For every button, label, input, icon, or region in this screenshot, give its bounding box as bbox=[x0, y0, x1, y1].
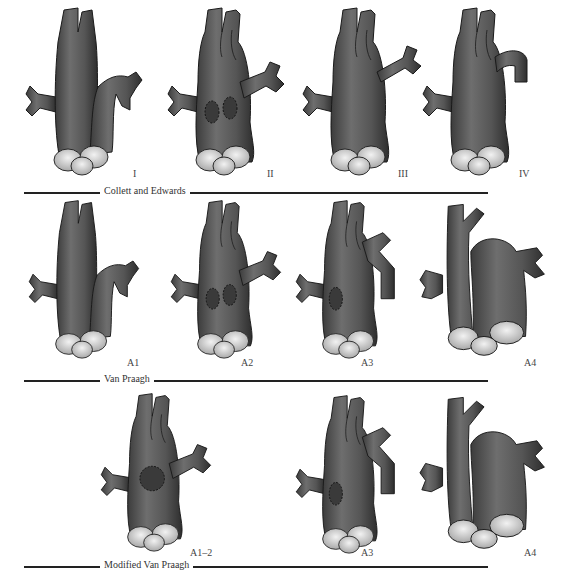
type-label: I bbox=[133, 168, 136, 179]
diagram-type-III bbox=[295, 2, 425, 181]
section-title: Modified Van Praagh bbox=[100, 559, 193, 570]
type-label: IV bbox=[519, 168, 530, 179]
type-label: II bbox=[267, 168, 274, 179]
section-title: Van Praagh bbox=[100, 373, 154, 384]
diagram-type-I bbox=[18, 2, 148, 181]
type-label: III bbox=[398, 168, 408, 179]
type-label: A4 bbox=[524, 357, 536, 368]
section-divider bbox=[24, 192, 488, 194]
type-label: A4 bbox=[524, 547, 536, 558]
section-divider bbox=[24, 566, 488, 568]
type-label: A3 bbox=[361, 357, 373, 368]
type-label: A3 bbox=[361, 547, 373, 558]
diagram-type-A4-modified bbox=[410, 388, 560, 557]
diagram-type-A3 bbox=[285, 195, 415, 364]
type-label: A1–2 bbox=[190, 547, 212, 558]
diagram-type-A4 bbox=[410, 195, 560, 364]
type-label: A1 bbox=[127, 357, 139, 368]
diagram-type-A1-2 bbox=[90, 388, 220, 557]
section-divider bbox=[24, 380, 488, 382]
type-label: A2 bbox=[241, 357, 253, 368]
diagram-type-A1 bbox=[18, 195, 148, 364]
diagram-type-A3-modified bbox=[285, 390, 415, 559]
diagram-type-A2 bbox=[160, 195, 290, 364]
diagram-type-II bbox=[160, 2, 290, 181]
diagram-type-IV bbox=[415, 2, 545, 181]
